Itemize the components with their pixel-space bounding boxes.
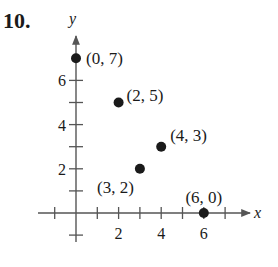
- point-label: (6, 0): [185, 188, 222, 207]
- x-tick-label: 2: [115, 225, 123, 242]
- data-point: [135, 164, 145, 174]
- x-axis-label: x: [253, 204, 261, 221]
- point-label: (0, 7): [86, 49, 123, 68]
- data-point: [156, 142, 166, 152]
- y-tick-label: 6: [58, 72, 66, 89]
- point-labels: (0, 7)(2, 5)(4, 3)(3, 2)(6, 0): [86, 49, 222, 207]
- data-point: [199, 208, 209, 218]
- y-tick-label: 2: [58, 161, 66, 178]
- point-label: (2, 5): [127, 86, 164, 105]
- x-tick-label: 6: [200, 225, 208, 242]
- scatter-plot: 246246 (0, 7)(2, 5)(4, 3)(3, 2)(6, 0) x …: [0, 0, 278, 267]
- y-tick-label: 4: [58, 117, 66, 134]
- x-tick-label: 4: [157, 225, 165, 242]
- point-label: (3, 2): [97, 178, 134, 197]
- data-point: [71, 53, 81, 63]
- point-label: (4, 3): [170, 126, 207, 145]
- y-axis-label: y: [67, 10, 77, 28]
- axes: [38, 36, 250, 242]
- data-point: [114, 98, 124, 108]
